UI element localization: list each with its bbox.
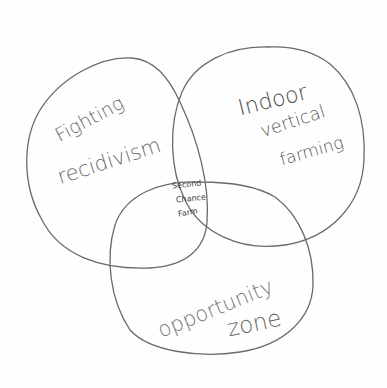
venn-diagram-canvas: Fighting recidivism Indoor vertical farm…	[0, 0, 387, 388]
